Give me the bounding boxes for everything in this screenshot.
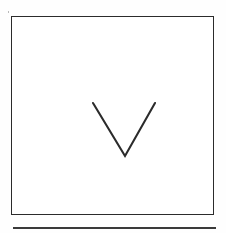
scanned-figure-page <box>0 0 226 233</box>
scan-speck-artifact <box>8 11 9 13</box>
checkmark-v-icon <box>88 97 162 163</box>
chevron-stroke-path <box>93 103 155 156</box>
drawn-frame-box[interactable] <box>11 16 214 215</box>
next-box-top-edge <box>13 227 216 229</box>
